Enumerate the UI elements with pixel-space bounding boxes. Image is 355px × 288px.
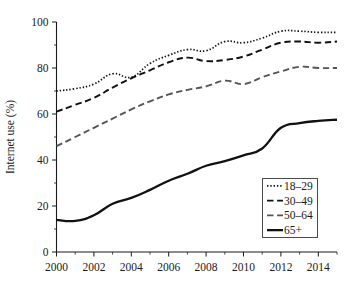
x-tick-label-2006: 2006 — [157, 261, 180, 273]
x-tick-label-2014: 2014 — [307, 261, 330, 273]
legend-label-0: 18–29 — [284, 180, 313, 192]
y-tick-label-20: 20 — [37, 200, 49, 212]
x-tick-label-2012: 2012 — [269, 261, 292, 273]
y-tick-label-60: 60 — [37, 108, 49, 120]
y-tick-label-100: 100 — [31, 16, 49, 28]
series-line-3049 — [57, 41, 338, 111]
y-tick-label-0: 0 — [43, 246, 49, 258]
x-tick-label-2010: 2010 — [232, 261, 255, 273]
y-tick-label-40: 40 — [37, 154, 49, 166]
x-tick-label-2000: 2000 — [45, 261, 68, 273]
series-line-1829 — [57, 30, 338, 91]
y-axis-title: Internet use (%) — [4, 100, 17, 174]
x-tick-label-2002: 2002 — [82, 261, 105, 273]
series-line-5064 — [57, 67, 338, 147]
legend-label-2: 50–64 — [284, 209, 313, 221]
x-tick-label-2004: 2004 — [120, 261, 143, 273]
y-tick-label-80: 80 — [37, 62, 49, 74]
legend-label-1: 30–49 — [284, 195, 313, 207]
chart-container: 0204060801002000200220042006200820102012… — [0, 0, 355, 288]
legend-label-3: 65+ — [284, 224, 302, 236]
x-tick-label-2008: 2008 — [195, 261, 218, 273]
line-chart: 0204060801002000200220042006200820102012… — [0, 0, 355, 288]
